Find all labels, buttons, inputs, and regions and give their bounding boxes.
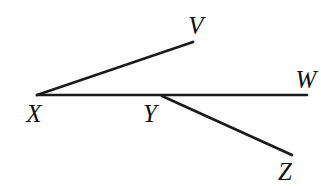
point-label-x: X — [25, 100, 43, 127]
point-label-y: Y — [143, 100, 160, 127]
point-label-z: Z — [278, 158, 293, 185]
point-label-w: W — [296, 66, 319, 93]
point-label-v: V — [188, 12, 206, 39]
ray-xv-line — [37, 42, 193, 95]
geometry-figure: V W X Y Z — [0, 0, 321, 189]
ray-yz-line — [162, 96, 292, 155]
figure-canvas: V W X Y Z — [0, 0, 321, 189]
